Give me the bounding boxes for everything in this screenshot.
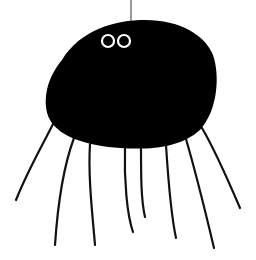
leg-3	[89, 144, 95, 245]
leg-2	[55, 138, 74, 245]
leg-6	[166, 145, 176, 238]
leg-8	[202, 128, 240, 208]
leg-5	[141, 148, 145, 217]
leg-1	[16, 124, 53, 200]
leg-7	[186, 139, 214, 248]
leg-4	[125, 148, 133, 232]
spider-illustration: Black spider hanging from a thread	[0, 0, 256, 260]
right-eye-icon	[118, 35, 130, 47]
left-eye-icon	[102, 35, 114, 47]
spider-body	[46, 20, 217, 149]
spider-drawing	[0, 0, 256, 260]
